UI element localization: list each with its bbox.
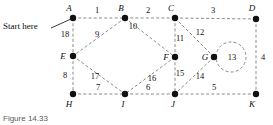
node-label-layer: A B C D E F G H I J K: [59, 3, 256, 109]
node-J[interactable]: [172, 91, 178, 97]
node-A[interactable]: [70, 15, 76, 21]
node-K[interactable]: [253, 91, 259, 97]
node-label-B: B: [118, 3, 124, 13]
node-D[interactable]: [253, 16, 259, 22]
edge-weight-E-H: 8: [63, 70, 67, 80]
node-E[interactable]: [70, 53, 76, 59]
node-label-D: D: [248, 3, 256, 13]
edge-weight-I-J: 6: [146, 82, 150, 92]
start-here-label: Start here: [3, 21, 38, 31]
node-label-K: K: [248, 99, 256, 109]
edge-weight-A-E: 18: [61, 29, 70, 39]
edge-weight-B-F: 10: [129, 21, 138, 31]
figure-caption: Figure 14.33: [3, 114, 48, 123]
node-I[interactable]: [122, 91, 128, 97]
node-H[interactable]: [70, 91, 76, 97]
edge-weight-J-K: 5: [212, 82, 216, 92]
edge-weight-F-J: 15: [176, 68, 185, 78]
edge-weight-A-B: 1: [95, 5, 99, 15]
edge-weight-C-G: 12: [196, 27, 205, 37]
edge-weight-B-E: 9: [95, 29, 99, 39]
node-F[interactable]: [172, 54, 178, 60]
node-label-F: F: [162, 52, 169, 62]
edge-weight-H-I: 7: [96, 82, 100, 92]
node-B[interactable]: [122, 15, 128, 21]
graph-diagram: A B C D E F G H I J K 1 2 3 4 5 6 7 8 9 …: [0, 0, 273, 125]
node-label-A: A: [65, 3, 72, 13]
node-label-J: J: [171, 99, 176, 109]
edge-weight-D-K: 4: [261, 52, 266, 62]
node-G[interactable]: [211, 54, 217, 60]
edge-C-D: [175, 18, 256, 19]
node-C[interactable]: [172, 15, 178, 21]
edge-weight-C-D: 3: [211, 5, 215, 15]
start-here-pointer-line: [51, 19, 71, 28]
node-label-G: G: [202, 52, 209, 62]
edge-weight-C-F: 11: [176, 33, 184, 43]
edge-weight-E-I: 17: [91, 71, 100, 81]
edge-weight-G-J: 14: [196, 71, 205, 81]
node-label-H: H: [65, 99, 73, 109]
edge-weight-G-G: 13: [228, 52, 237, 62]
edge-weight-F-I: 16: [148, 73, 157, 83]
node-label-C: C: [168, 3, 175, 13]
node-label-I: I: [121, 99, 126, 109]
figure-container: A B C D E F G H I J K 1 2 3 4 5 6 7 8 9 …: [0, 0, 273, 125]
node-label-E: E: [59, 51, 66, 61]
edge-weight-B-C: 2: [146, 5, 150, 15]
